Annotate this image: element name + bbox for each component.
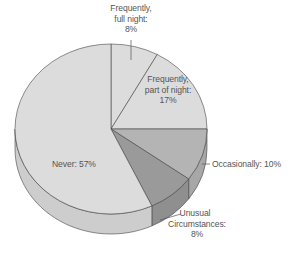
- label-full-night-line1: Frequently,: [105, 3, 157, 14]
- label-full-night: Frequently, full night: 8%: [105, 3, 157, 35]
- label-occasionally: Occasionally: 10%: [212, 159, 281, 170]
- label-full-night-line3: 8%: [105, 24, 157, 35]
- label-unusual-circumstances: Unusual Circumstances: 8%: [164, 208, 230, 240]
- pie-top-surface: [15, 44, 207, 214]
- label-part-of-night-line2: part of night:: [136, 85, 200, 96]
- label-unusual-line3: 8%: [164, 229, 230, 240]
- label-part-of-night-line3: 17%: [136, 95, 200, 106]
- label-never: Never: 57%: [52, 159, 96, 170]
- label-unusual-line2: Circumstances:: [164, 219, 230, 230]
- label-part-of-night: Frequently, part of night: 17%: [136, 74, 200, 106]
- label-part-of-night-line1: Frequently,: [136, 74, 200, 85]
- pie-chart: [0, 0, 297, 253]
- label-unusual-line1: Unusual: [164, 208, 230, 219]
- label-full-night-line2: full night:: [105, 14, 157, 25]
